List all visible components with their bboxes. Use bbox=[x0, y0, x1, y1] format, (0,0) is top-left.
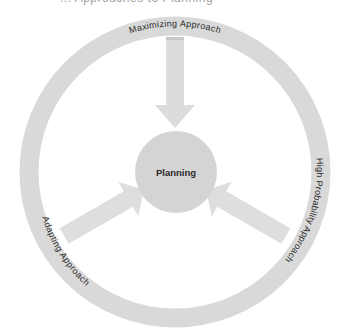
arrow-maximizing bbox=[155, 37, 195, 128]
planning-label: Planning bbox=[156, 167, 196, 178]
planning-approaches-diagram: Planning Maximizing Approach High Probab… bbox=[0, 0, 348, 336]
